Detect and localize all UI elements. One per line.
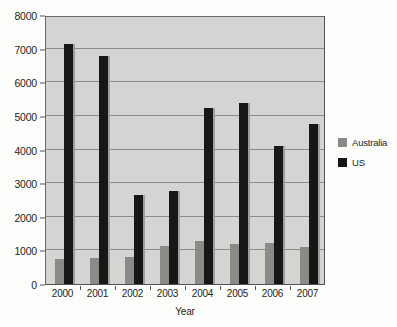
y-tick-label: 6000 [14,77,37,89]
bar-us-2005 [239,103,248,284]
plot-area [45,16,325,285]
bar-group [291,17,326,284]
x-tick-mark [185,286,186,290]
bar-australia-2003 [160,246,169,284]
y-tick-mark [40,285,45,286]
x-tick-label: 2002 [122,288,143,299]
y-axis: 010002000300040005000600070008000 [0,0,45,327]
bar-us-2000 [64,44,73,284]
y-tick-mark [40,116,45,117]
y-tick-mark [40,217,45,218]
y-tick-label: 4000 [14,145,37,157]
legend-item-us[interactable]: US [338,152,397,172]
y-tick-mark [40,49,45,50]
bar-us-2001 [99,56,108,284]
y-tick-label: 2000 [14,212,37,224]
bar-australia-2006 [265,243,274,284]
bar-us-2006 [274,146,283,284]
x-tick-mark [290,286,291,290]
bar-group [186,17,221,284]
y-tick-label: 5000 [14,111,37,123]
y-tick-mark [40,16,45,17]
legend-swatch-icon [338,138,347,147]
x-tick-mark [115,286,116,290]
x-tick-label: 2001 [87,288,108,299]
bar-australia-2001 [90,258,99,284]
x-tick-mark [255,286,256,290]
y-tick-label: 0 [31,279,37,291]
y-tick-label: 3000 [14,178,37,190]
x-tick-mark [80,286,81,290]
bar-group [221,17,256,284]
x-axis-title: Year [45,306,325,317]
y-tick-label: 7000 [14,44,37,56]
legend-label: Australia [352,137,387,148]
bar-group [46,17,81,284]
bar-us-2002 [134,195,143,284]
bar-australia-2007 [300,247,309,284]
x-axis-tick-labels: 20002001200220032004200520062007 [45,288,325,304]
bar-australia-2004 [195,241,204,284]
bar-australia-2005 [230,244,239,284]
bar-chart-figure: 010002000300040005000600070008000 200020… [0,0,397,327]
bar-us-2003 [169,191,178,284]
bar-australia-2002 [125,257,134,284]
x-tick-label: 2006 [262,288,283,299]
y-tick-label: 8000 [14,10,37,22]
y-tick-mark [40,184,45,185]
x-tick-label: 2007 [297,288,318,299]
y-tick-mark [40,83,45,84]
legend-label: US [352,157,365,168]
bar-group [81,17,116,284]
bar-group [116,17,151,284]
bar-us-2007 [309,124,318,284]
x-tick-label: 2004 [192,288,213,299]
x-tick-mark [150,286,151,290]
y-tick-mark [40,150,45,151]
legend-item-australia[interactable]: Australia [338,132,397,152]
x-tick-label: 2005 [227,288,248,299]
x-tick-mark [220,286,221,290]
bar-us-2004 [204,108,213,284]
bar-group [151,17,186,284]
chart-legend: AustraliaUS [338,132,397,172]
x-tick-label: 2000 [52,288,73,299]
x-tick-label: 2003 [157,288,178,299]
y-tick-mark [40,251,45,252]
bar-australia-2000 [55,259,64,284]
bar-group [256,17,291,284]
legend-swatch-icon [338,158,347,167]
y-tick-label: 1000 [14,245,37,257]
